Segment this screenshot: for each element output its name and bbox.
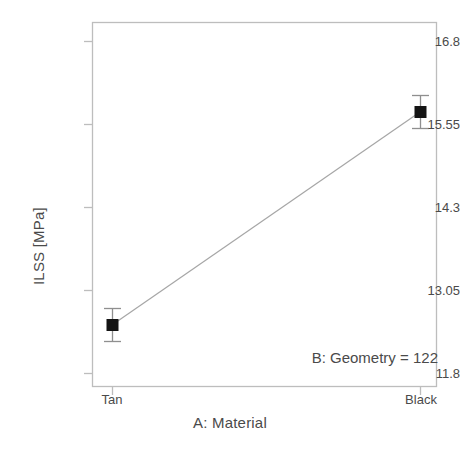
x-tick-label-black: Black xyxy=(405,392,437,407)
y-axis-ticks xyxy=(84,42,92,374)
data-point-tan[interactable] xyxy=(107,319,119,331)
x-axis-title: A: Material xyxy=(0,414,460,431)
y-tick-label-16-8: 16.8 xyxy=(382,34,460,49)
interaction-plot: ILSS [MPa] A: Material 16.8 15.55 14.3 1… xyxy=(0,0,460,451)
y-tick-label-15-55: 15.55 xyxy=(382,117,460,132)
y-tick-label-13-05: 13.05 xyxy=(382,283,460,298)
annotation-geometry: B: Geometry = 122 xyxy=(312,349,438,366)
y-axis-title: ILSS [MPa] xyxy=(30,207,47,285)
x-axis-ticks xyxy=(113,387,421,395)
x-tick-label-tan: Tan xyxy=(102,392,123,407)
y-tick-label-11-8: 11.8 xyxy=(382,366,460,381)
y-tick-label-14-3: 14.3 xyxy=(382,200,460,215)
chart-canvas xyxy=(0,0,460,451)
